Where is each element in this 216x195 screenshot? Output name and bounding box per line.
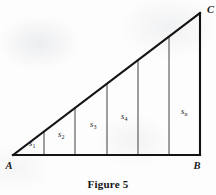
strip-label-n-subscript: n bbox=[185, 111, 188, 117]
figure-drawing: A B C s1 s2 s3 s4 sn Figure 5 bbox=[0, 0, 216, 195]
strip-label-1-subscript: 1 bbox=[33, 143, 36, 149]
strip-label-group: s1 s2 s3 s4 sn bbox=[29, 106, 188, 149]
strip-label-4: s4 bbox=[121, 111, 128, 122]
vertex-label-a: A bbox=[4, 160, 12, 171]
vertex-label-b: B bbox=[192, 160, 200, 171]
figure-caption: Figure 5 bbox=[88, 178, 129, 190]
triangle-outline bbox=[13, 13, 200, 155]
strip-label-3: s3 bbox=[90, 119, 97, 130]
strip-label-3-subscript: 3 bbox=[94, 124, 97, 130]
figure-root: A B C s1 s2 s3 s4 sn Figure 5 bbox=[0, 0, 216, 195]
triangle-edge-hypotenuse bbox=[13, 13, 200, 155]
vertex-label-c: C bbox=[207, 4, 215, 15]
strip-label-2-subscript: 2 bbox=[62, 134, 65, 140]
strip-label-4-subscript: 4 bbox=[125, 116, 128, 122]
strip-label-n: sn bbox=[181, 106, 188, 117]
strip-label-2: s2 bbox=[58, 129, 65, 140]
